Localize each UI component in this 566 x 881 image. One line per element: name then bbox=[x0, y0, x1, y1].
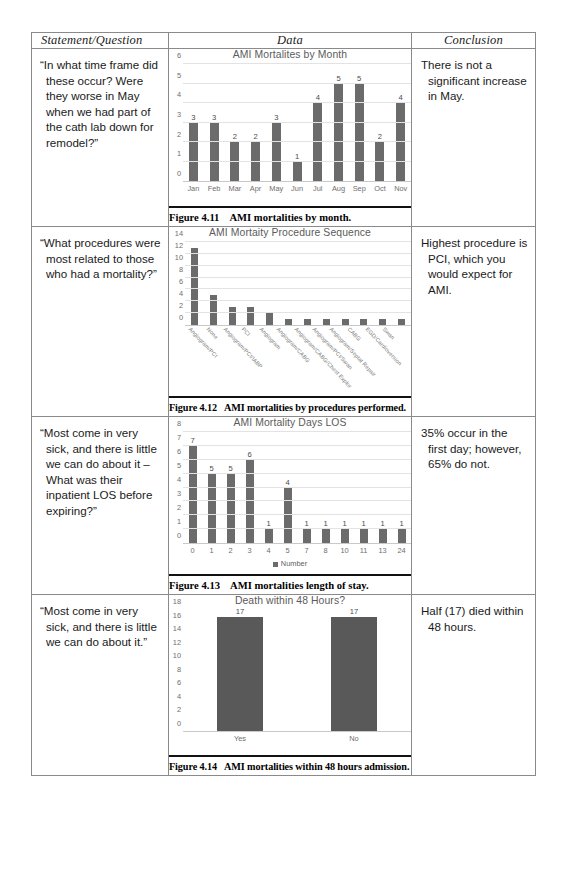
table-row: “Most come in very sick, and there is li… bbox=[32, 595, 536, 776]
conclusion-text: Highest procedure is PCI, which you woul… bbox=[419, 227, 535, 307]
chart-title: Death within 48 Hours? bbox=[169, 595, 411, 606]
y-axis: 0123456 bbox=[169, 64, 183, 182]
y-axis-tick: 2 bbox=[179, 301, 183, 310]
bar-value-label: 1 bbox=[342, 519, 346, 528]
bar-value-label: 1 bbox=[399, 519, 403, 528]
y-axis-tick: 4 bbox=[177, 90, 181, 99]
plot-area: 755614111111 bbox=[183, 432, 411, 544]
x-axis: YesNo bbox=[183, 732, 411, 743]
y-axis-tick: 1 bbox=[177, 149, 181, 158]
y-axis-tick: 10 bbox=[173, 651, 181, 660]
bar-slot: 1 bbox=[335, 432, 354, 543]
bar bbox=[247, 307, 254, 325]
chart-legend: Number bbox=[169, 559, 411, 568]
bar-value-label: 5 bbox=[357, 74, 361, 83]
figure-caption: Figure 4.13AMI mortalities length of sta… bbox=[169, 576, 411, 594]
x-axis-tick: PCI bbox=[240, 326, 251, 337]
y-axis-tick: 6 bbox=[177, 447, 181, 456]
chart-ami-mortalities-by-month: AMI Mortalites by Month 0123456 33223145… bbox=[169, 49, 411, 201]
x-axis-tick: CABG bbox=[346, 326, 361, 342]
table-row: “Most come in very sick, and there is li… bbox=[32, 417, 536, 595]
x-axis-tick: Feb bbox=[204, 184, 225, 193]
gridline bbox=[183, 500, 411, 501]
bar bbox=[285, 319, 292, 325]
figure-number: Figure 4.11 bbox=[169, 212, 219, 223]
y-axis-tick: 3 bbox=[177, 110, 181, 119]
gridline bbox=[183, 528, 411, 529]
y-axis-tick: 6 bbox=[179, 277, 183, 286]
bar bbox=[210, 123, 219, 182]
figure-caption-text: AMI mortalities by procedures performed. bbox=[224, 402, 406, 413]
x-axis-tick: Sep bbox=[349, 184, 370, 193]
y-axis-tick: 10 bbox=[175, 253, 183, 262]
bar bbox=[398, 319, 405, 325]
bar-value-label: 1 bbox=[323, 519, 327, 528]
document-page: Statement/Question Data Conclusion “In w… bbox=[0, 0, 566, 881]
statement-text: “Most come in very sick, and there is li… bbox=[38, 595, 168, 660]
bar bbox=[379, 529, 387, 543]
y-axis-tick: 0 bbox=[177, 531, 181, 540]
y-axis-tick: 4 bbox=[179, 289, 183, 298]
gridline bbox=[185, 277, 411, 278]
y-axis-tick: 2 bbox=[177, 705, 181, 714]
bar-value-label: 1 bbox=[361, 519, 365, 528]
x-axis-tick: 11 bbox=[354, 546, 373, 555]
data-cell: AMI Mortaity Procedure Sequence 02468101… bbox=[169, 227, 412, 417]
figure-caption: Figure 4.11AMI mortalities by month. bbox=[169, 208, 411, 226]
y-axis-tick: 4 bbox=[177, 691, 181, 700]
x-axis-tick: Yes bbox=[183, 734, 297, 743]
bar-value-label: 4 bbox=[399, 93, 403, 102]
gridline bbox=[183, 102, 411, 103]
x-axis-tick: 5 bbox=[278, 546, 297, 555]
column-header-data: Data bbox=[169, 33, 412, 49]
x-axis-tick: 3 bbox=[240, 546, 259, 555]
bar-value-label: 2 bbox=[233, 132, 237, 141]
bar-slot: 1 bbox=[373, 432, 392, 543]
bar bbox=[398, 529, 406, 543]
y-axis: 024681012141618 bbox=[169, 610, 183, 732]
bar-slot: 4 bbox=[278, 432, 297, 543]
bar-value-label: 5 bbox=[336, 74, 340, 83]
x-axis-tick: Aug bbox=[328, 184, 349, 193]
x-axis-tick: Jul bbox=[307, 184, 328, 193]
figure-caption-text: AMI mortalities by month. bbox=[229, 212, 351, 223]
statement-cell: “Most come in very sick, and there is li… bbox=[32, 417, 169, 595]
y-axis-tick: 7 bbox=[177, 433, 181, 442]
conclusion-cell: Half (17) died within 48 hours. bbox=[412, 595, 536, 776]
x-axis-tick: 0 bbox=[183, 546, 202, 555]
plot-area bbox=[185, 242, 411, 326]
bar bbox=[208, 474, 216, 543]
statement-cell: “What procedures were most related to th… bbox=[32, 227, 169, 417]
chart-ami-mortality-procedure-sequence: AMI Mortaity Procedure Sequence 02468101… bbox=[169, 227, 411, 391]
table-row: “What procedures were most related to th… bbox=[32, 227, 536, 417]
x-axis-tick: 4 bbox=[259, 546, 278, 555]
statement-text: “What procedures were most related to th… bbox=[38, 227, 168, 292]
bar bbox=[303, 529, 311, 543]
bar-value-label: 6 bbox=[247, 450, 251, 459]
bar-value-label: 17 bbox=[236, 607, 244, 616]
bar bbox=[227, 474, 235, 543]
chart-title: AMI Mortality Days LOS bbox=[169, 417, 411, 428]
gridline bbox=[183, 63, 411, 64]
gridline bbox=[185, 312, 411, 313]
x-axis-tick: 10 bbox=[335, 546, 354, 555]
y-axis-tick: 18 bbox=[173, 597, 181, 606]
x-axis-tick: Jan bbox=[183, 184, 204, 193]
bar-slot: 1 bbox=[316, 432, 335, 543]
bar-slot: 5 bbox=[202, 432, 221, 543]
bar-value-label: 7 bbox=[190, 436, 194, 445]
bar-value-label: 17 bbox=[350, 607, 358, 616]
bar-slot: 1 bbox=[354, 432, 373, 543]
statement-cell: “In what time frame did these occur? Wer… bbox=[32, 49, 169, 227]
gridline bbox=[183, 141, 411, 142]
bar-slot: 6 bbox=[240, 432, 259, 543]
y-axis-tick: 2 bbox=[177, 503, 181, 512]
bar bbox=[191, 248, 198, 325]
legend-label: Number bbox=[281, 559, 307, 568]
x-axis-tick: Mar bbox=[224, 184, 245, 193]
bar-slot: 7 bbox=[183, 432, 202, 543]
y-axis-tick: 8 bbox=[177, 664, 181, 673]
bar bbox=[229, 307, 236, 325]
y-axis: 02468101214 bbox=[169, 242, 185, 326]
y-axis-tick: 0 bbox=[179, 313, 183, 322]
